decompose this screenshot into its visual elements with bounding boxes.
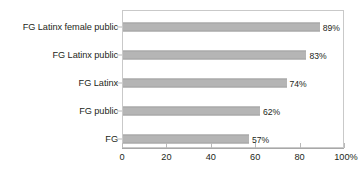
x-axis-tick-label: 0 [119, 152, 124, 162]
bar-value-label: 83% [306, 50, 326, 60]
y-axis-tick [117, 83, 122, 84]
x-axis-tick-label: 60 [250, 152, 260, 162]
bar-track: 62% [123, 107, 344, 116]
bar[interactable] [123, 107, 260, 116]
chart-row: FG public 62% [0, 97, 364, 125]
bar[interactable] [123, 23, 320, 32]
bar-value-label: 89% [320, 22, 340, 32]
bar[interactable] [123, 79, 287, 88]
chart-row: FG Latinx female public 89% [0, 13, 364, 41]
chart-row: FG Latinx public 83% [0, 41, 364, 69]
category-label: FG Latinx public [52, 50, 118, 60]
bar-value-label: 62% [260, 106, 280, 116]
bar[interactable] [123, 51, 306, 60]
x-axis-tick-label: 100% [334, 152, 358, 162]
y-axis-tick [117, 111, 122, 112]
x-axis-tick [255, 143, 256, 148]
bar[interactable] [123, 135, 249, 144]
x-axis-line [122, 148, 344, 149]
y-axis-tick [117, 139, 122, 140]
x-axis-tick-label: 40 [206, 152, 216, 162]
bar-chart: FG Latinx female public 89% FG Latinx pu… [0, 0, 364, 176]
category-label: FG Latinx female public [23, 22, 118, 32]
x-axis-tick [122, 143, 123, 148]
bar-value-label: 74% [287, 78, 307, 88]
x-axis-tick-label: 80 [294, 152, 304, 162]
category-label: FG Latinx [79, 78, 118, 88]
chart-row: FG Latinx 74% [0, 69, 364, 97]
y-axis-tick [117, 27, 122, 28]
x-axis-tick-label: 20 [161, 152, 171, 162]
x-axis-tick [166, 143, 167, 148]
category-label: FG public [79, 106, 118, 116]
bar-track: 74% [123, 79, 344, 88]
bar-value-label: 57% [249, 134, 269, 144]
x-axis-tick [211, 143, 212, 148]
y-axis-tick [117, 55, 122, 56]
x-axis-tick [300, 143, 301, 148]
bar-track: 89% [123, 23, 344, 32]
bar-track: 57% [123, 135, 344, 144]
bar-track: 83% [123, 51, 344, 60]
x-axis-tick [344, 143, 345, 148]
